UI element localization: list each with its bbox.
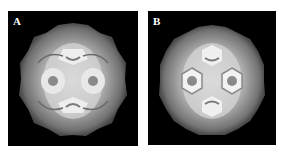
panel-a: A: [8, 11, 138, 146]
capsid-image-a: [8, 11, 138, 146]
panel-label-a: A: [13, 15, 21, 27]
panel-b: B: [148, 11, 276, 145]
capsid-image-b: [148, 11, 276, 145]
panel-label-b: B: [153, 15, 160, 27]
